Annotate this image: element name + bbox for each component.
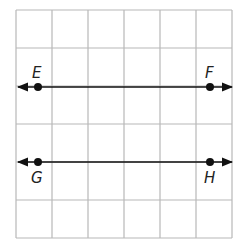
parallel-lines-diagram: E F G H <box>0 0 244 250</box>
label-F: F <box>205 64 214 82</box>
label-G: G <box>31 169 43 187</box>
label-E: E <box>32 64 42 82</box>
line-GH: G H <box>18 158 232 187</box>
label-H: H <box>204 169 215 187</box>
point-H <box>206 158 214 166</box>
point-F <box>206 83 214 91</box>
line-EF: E F <box>18 64 232 91</box>
point-G <box>34 158 42 166</box>
point-E <box>34 83 42 91</box>
grid <box>16 10 232 238</box>
